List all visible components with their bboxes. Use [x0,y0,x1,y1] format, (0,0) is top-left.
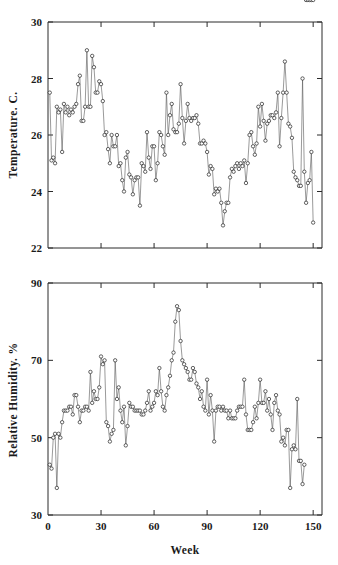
data-point [156,162,159,165]
data-point [278,145,281,148]
data-point [142,164,145,167]
data-point [145,401,148,404]
data-point [156,393,159,396]
data-point [64,111,67,114]
data-point [177,308,180,311]
data-point [179,82,182,85]
x-tick-label: 90 [202,520,214,532]
data-point [66,105,69,108]
data-point [214,409,217,412]
data-point [281,436,284,439]
data-point [195,114,198,117]
data-point [235,409,238,412]
data-point [83,105,86,108]
data-point [115,397,118,400]
data-point [241,405,244,408]
data-point [90,401,93,404]
data-point [144,409,147,412]
data-point [170,102,173,105]
bottom-panel-y-tick-labels: 30507090 [31,277,43,521]
data-point [126,424,129,427]
figure-container: Temperature. C. 2224262830 Relative Humi… [0,0,338,565]
data-point [290,136,293,139]
data-point [276,409,279,412]
data-point [108,162,111,165]
data-point [255,417,258,420]
data-point [227,201,230,204]
data-point [283,60,286,63]
data-point [207,173,210,176]
data-point [244,181,247,184]
data-point [55,105,58,108]
data-point [128,401,131,404]
data-point [89,105,92,108]
data-point [90,54,93,57]
data-point [85,49,88,52]
data-point [285,91,288,94]
data-point [308,179,311,182]
humidity-series-markers [48,0,315,490]
data-point [225,409,228,412]
data-point [119,162,122,165]
data-point [96,397,99,400]
data-point [163,153,166,156]
data-point [124,444,127,447]
data-point [184,119,187,122]
data-point [53,432,56,435]
y-tick-label: 90 [31,277,43,289]
temperature-series-line [50,50,313,225]
data-point [274,111,277,114]
data-point [257,105,260,108]
data-point [296,179,299,182]
top-panel-y-tick-labels: 2224262830 [31,16,43,254]
data-point [96,91,99,94]
data-point [181,359,184,362]
data-point [142,413,145,416]
data-point [99,355,102,358]
data-point [101,363,104,366]
data-point [167,133,170,136]
data-point [131,193,134,196]
data-point [59,436,62,439]
data-point [168,114,171,117]
data-point [76,405,79,408]
data-point [243,159,246,162]
data-point [110,432,113,435]
data-point [237,167,240,170]
data-point [52,156,55,159]
data-point [258,378,261,381]
data-point [287,428,290,431]
data-point [220,201,223,204]
two-panel-timeseries-chart: Temperature. C. 2224262830 Relative Humi… [0,0,338,565]
data-point [87,409,90,412]
x-tick-label: 150 [305,520,322,532]
data-point [186,370,189,373]
y-tick-label: 26 [31,129,43,141]
data-point [167,386,170,389]
data-point [138,409,141,412]
data-point [290,448,293,451]
data-point [106,147,109,150]
data-point [163,409,166,412]
data-point [221,405,224,408]
data-point [53,162,56,165]
data-point [122,190,125,193]
data-point [172,351,175,354]
data-point [250,130,253,133]
data-point [182,142,185,145]
data-point [280,440,283,443]
data-point [177,122,180,125]
data-point [204,142,207,145]
data-point [113,359,116,362]
data-point [220,409,223,412]
data-point [62,102,65,105]
data-point [161,145,164,148]
data-point [207,413,210,416]
data-point [159,133,162,136]
data-point [71,413,74,416]
data-point [202,405,205,408]
data-point [276,91,279,94]
data-point [98,386,101,389]
x-tick-label: 30 [96,520,108,532]
data-point [243,378,246,381]
